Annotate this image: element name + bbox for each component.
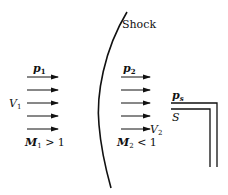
stagnation-pressure-label: ps bbox=[172, 89, 184, 103]
upstream-flow-arrows bbox=[27, 77, 58, 129]
downstream-velocity-label: V2 bbox=[150, 123, 162, 137]
stagnation-point-label: S bbox=[172, 111, 180, 124]
shock-label: Shock bbox=[122, 18, 156, 31]
shock-diagram: Shock p1 V1 M1 > 1 p2 V2 M2 < 1 ps S bbox=[0, 0, 228, 195]
diagram-svg: Shock p1 V1 M1 > 1 p2 V2 M2 < 1 ps S bbox=[0, 0, 228, 195]
upstream-velocity-label: V1 bbox=[9, 97, 21, 111]
shock-wave-curve bbox=[98, 12, 127, 188]
downstream-mach-label: M2 < 1 bbox=[116, 136, 157, 150]
downstream-pressure-label: p2 bbox=[123, 62, 136, 76]
downstream-flow-arrows bbox=[121, 77, 150, 129]
upstream-pressure-label: p1 bbox=[33, 62, 46, 76]
upstream-mach-label: M1 > 1 bbox=[24, 136, 65, 150]
